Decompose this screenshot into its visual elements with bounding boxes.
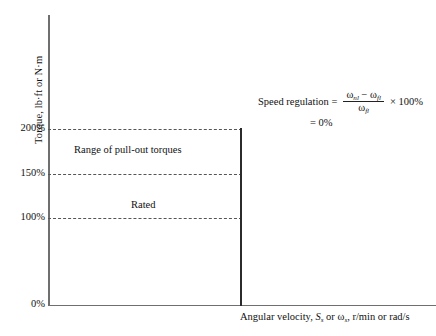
equation-minus-sign: −	[362, 89, 368, 100]
equation-fraction: ωnl − ωfl ωfl	[343, 89, 384, 114]
omega-nl-subscript: nl	[353, 94, 359, 102]
y-tick-label-100: 100%	[1, 211, 45, 222]
omega-fl-subscript-num: fl	[377, 94, 381, 102]
reference-line-150	[48, 174, 242, 175]
equation-denominator: ωfl	[355, 102, 372, 114]
torque-speed-curve	[240, 128, 242, 306]
equation-numerator: ωnl − ωfl	[343, 89, 384, 101]
equation-multiplier: × 100%	[390, 96, 423, 107]
omega-fl-subscript-den: fl	[365, 107, 369, 115]
y-tick-200: 200%	[0, 122, 45, 135]
y-tick-100: 100%	[0, 211, 45, 224]
speed-symbol-s: S	[315, 311, 320, 322]
omega-fl-symbol-num: ω	[370, 89, 377, 100]
pull-out-range-label: Range of pull-out torques	[74, 144, 182, 155]
equation-line-1: Speed regulation = ωnl − ωfl ωfl × 100%	[258, 89, 423, 114]
y-tick-0: 0%	[0, 298, 45, 311]
x-axis-title: Angular velocity, Ss or ωs, r/min or rad…	[240, 311, 410, 322]
rated-label: Rated	[131, 199, 156, 210]
equation-line-2: = 0%	[310, 117, 423, 128]
reference-line-100	[48, 218, 242, 219]
y-tick-label-150: 150%	[1, 167, 45, 178]
x-axis-title-tail: , r/min or rad/s	[347, 311, 409, 322]
equation-lead-text: Speed regulation =	[258, 96, 337, 107]
y-tick-150: 150%	[0, 167, 45, 180]
x-axis-line	[48, 305, 436, 307]
y-axis-line	[48, 15, 50, 306]
y-tick-label-0: 0%	[1, 298, 45, 309]
reference-line-200	[48, 129, 242, 130]
x-axis-title-mid: or	[323, 311, 337, 322]
synchronous-motor-torque-speed-figure: Torque, lb·ft or N·m 200% 150% 100% 0% R…	[0, 0, 436, 336]
speed-symbol-omega-subscript: s	[344, 316, 347, 324]
speed-regulation-equation: Speed regulation = ωnl − ωfl ωfl × 100% …	[258, 89, 423, 128]
x-axis-title-lead: Angular velocity,	[240, 311, 313, 322]
y-tick-label-200: 200%	[1, 122, 45, 133]
